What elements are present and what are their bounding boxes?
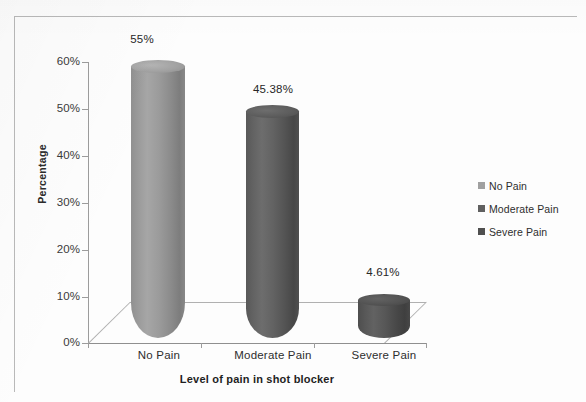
y-axis-label-40: 40% (40, 149, 80, 161)
y-axis-label-20: 20% (40, 243, 80, 255)
legend-swatch-icon-moderate-pain (478, 205, 485, 212)
x-axis-category-moderate-pain: Moderate Pain (222, 349, 324, 361)
y-axis-label-10: 10% (40, 290, 80, 302)
y-axis-line (88, 62, 89, 343)
x-axis-category-severe-pain: Severe Pain (336, 349, 432, 361)
y-axis-label-60: 60% (40, 55, 80, 67)
x-axis-tick-1 (201, 343, 202, 348)
bar-no-pain[interactable] (131, 66, 185, 338)
legend-item-no-pain[interactable]: No Pain (478, 174, 582, 197)
y-axis-tick-40 (82, 156, 88, 157)
bar-value-label-no-pain: 55% (107, 33, 177, 45)
x-axis-title: Level of pain in shot blocker (88, 373, 426, 385)
x-axis-tick-end (426, 343, 427, 348)
bar-severe-pain[interactable] (358, 300, 410, 338)
legend-label-no-pain: No Pain (489, 180, 527, 192)
y-axis-label-0: 0% (40, 336, 80, 348)
legend-swatch-icon-severe-pain (478, 228, 485, 235)
bar-value-label-severe-pain: 4.61% (349, 266, 417, 278)
bar-severe-pain-top-ellipse (358, 294, 410, 306)
legend-swatch-icon-no-pain (478, 182, 485, 189)
y-axis-tick-60 (82, 62, 88, 63)
legend-item-severe-pain[interactable]: Severe Pain (478, 220, 582, 243)
x-axis-tick-start (88, 343, 89, 348)
bar-moderate-pain[interactable] (246, 111, 299, 338)
x-axis-tick-2 (314, 343, 315, 348)
bar-moderate-pain-body (246, 111, 299, 338)
bar-no-pain-body (131, 66, 185, 338)
y-axis-label-30: 30% (40, 196, 80, 208)
legend-item-moderate-pain[interactable]: Moderate Pain (478, 197, 582, 220)
y-axis-label-50: 50% (40, 102, 80, 114)
y-axis-tick-50 (82, 109, 88, 110)
plot-area: Percentage 60% 50% 40% 30% 20% 10% 0% (0, 0, 586, 402)
category-axis-line (88, 343, 426, 344)
y-axis-tick-20 (82, 250, 88, 251)
bar-no-pain-top-ellipse (131, 60, 185, 73)
legend-label-severe-pain: Severe Pain (489, 226, 547, 238)
chart-container: Percentage 60% 50% 40% 30% 20% 10% 0% (0, 0, 586, 402)
y-axis-tick-30 (82, 203, 88, 204)
x-axis-category-no-pain: No Pain (118, 349, 200, 361)
y-axis-tick-10 (82, 297, 88, 298)
bar-value-label-moderate-pain: 45.38% (237, 83, 309, 95)
legend-label-moderate-pain: Moderate Pain (489, 203, 559, 215)
floor-left-edge (88, 302, 131, 344)
bar-moderate-pain-top-ellipse (246, 105, 299, 118)
legend: No Pain Moderate Pain Severe Pain (478, 174, 582, 243)
